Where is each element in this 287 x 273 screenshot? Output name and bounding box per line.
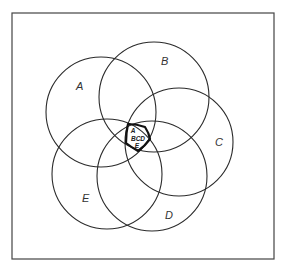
set-d-label: D	[165, 209, 173, 221]
set-b-label: B	[161, 55, 168, 67]
intersection-label-e: E	[135, 142, 140, 149]
intersection-label-bcd: BCD	[131, 135, 145, 142]
venn-diagram: A B C D E A BCD E	[0, 0, 287, 273]
intersection-label-a: A	[130, 127, 136, 134]
set-e-circle	[52, 119, 162, 229]
set-e-label: E	[82, 192, 90, 204]
set-a-label: A	[75, 80, 83, 92]
set-c-label: C	[215, 136, 223, 148]
